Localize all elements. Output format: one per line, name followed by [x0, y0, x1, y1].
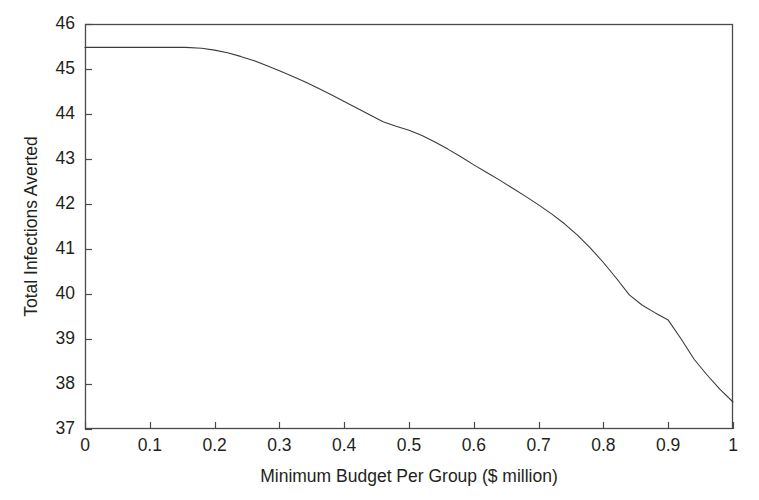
chart-figure: Total Infections Averted 373839404142434…: [0, 0, 759, 500]
axis-ticks: [85, 25, 734, 430]
plot-area: [0, 0, 759, 500]
data-series-group: [85, 47, 733, 402]
plot-frame: [86, 25, 733, 429]
data-line-0: [85, 47, 733, 402]
